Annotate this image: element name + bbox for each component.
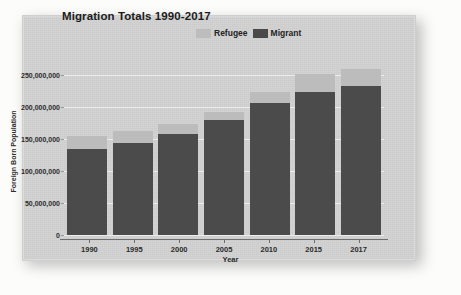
bar-segment-refugee[interactable] <box>67 136 107 148</box>
legend-label-refugee: Refugee <box>214 28 248 38</box>
x-tick-mark <box>224 239 225 243</box>
x-tick-label-2017: 2017 <box>350 245 367 254</box>
bar-segment-migrant[interactable] <box>295 92 335 235</box>
chart-title: Migration Totals 1990-2017 <box>62 10 211 22</box>
x-tick-label-1990: 1990 <box>81 245 98 254</box>
x-tick-label-2015: 2015 <box>305 245 322 254</box>
bar-segment-migrant[interactable] <box>67 149 107 235</box>
bar-2005[interactable] <box>204 60 244 235</box>
bar-segment-refugee[interactable] <box>113 131 153 143</box>
legend-swatch-migrant-icon <box>253 29 268 38</box>
bar-segment-migrant[interactable] <box>158 134 198 235</box>
legend-label-migrant: Migrant <box>271 28 302 38</box>
bar-segment-migrant[interactable] <box>204 120 244 235</box>
x-tick-label-2010: 2010 <box>261 245 278 254</box>
y-axis-title: Foreign Born Population <box>10 77 17 227</box>
bar-segment-refugee[interactable] <box>295 74 335 92</box>
bar-2010[interactable] <box>250 60 290 235</box>
x-tick-mark <box>359 239 360 243</box>
chart-legend: Refugee Migrant <box>196 28 301 38</box>
bar-2017[interactable] <box>341 60 381 235</box>
bar-segment-refugee[interactable] <box>204 112 244 120</box>
bar-segment-migrant[interactable] <box>113 143 153 235</box>
bar-group <box>64 60 384 235</box>
bar-2000[interactable] <box>158 60 198 235</box>
legend-item-refugee[interactable]: Refugee <box>196 28 248 38</box>
x-tick-label-2000: 2000 <box>171 245 188 254</box>
x-tick-mark <box>179 239 180 243</box>
legend-item-migrant[interactable]: Migrant <box>253 28 302 38</box>
legend-swatch-refugee-icon <box>196 29 211 38</box>
y-tick-label-4: 200,000,000 <box>21 104 60 111</box>
x-axis-title: Year <box>0 255 461 264</box>
y-tick-label-1: 50,000,000 <box>25 200 60 207</box>
y-tick-label-3: 150,000,000 <box>21 136 60 143</box>
x-tick-mark <box>89 239 90 243</box>
bar-1995[interactable] <box>113 60 153 235</box>
y-axis-labels: 0 50,000,000 100,000,000 150,000,000 200… <box>0 0 60 295</box>
x-tick-mark <box>314 239 315 243</box>
x-tick-mark <box>269 239 270 243</box>
x-tick-mark <box>134 239 135 243</box>
y-tick-label-5: 250,000,000 <box>21 72 60 79</box>
bar-segment-migrant[interactable] <box>250 103 290 235</box>
bar-segment-migrant[interactable] <box>341 86 381 235</box>
plot-area <box>64 60 384 235</box>
x-tick-label-1995: 1995 <box>126 245 143 254</box>
bar-2015[interactable] <box>295 60 335 235</box>
bar-segment-refugee[interactable] <box>250 92 290 102</box>
page-root: Migration Totals 1990-2017 Refugee Migra… <box>0 0 461 295</box>
y-tick-label-2: 100,000,000 <box>21 168 60 175</box>
x-tick-label-2005: 2005 <box>216 245 233 254</box>
bar-1990[interactable] <box>67 60 107 235</box>
gridline <box>64 235 384 236</box>
bar-segment-refugee[interactable] <box>158 124 198 134</box>
y-tick-label-0: 0 <box>56 232 60 239</box>
bar-segment-refugee[interactable] <box>341 69 381 86</box>
